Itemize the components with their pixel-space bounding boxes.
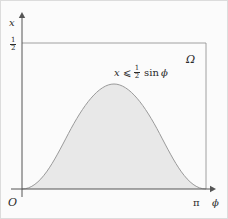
region-label-omega: Ω: [186, 54, 195, 65]
inequality-relation-icon: ⩽: [123, 68, 131, 78]
figure-container: x 1 2 O π ϕ Ω x ⩽ 1 2 sin ϕ: [0, 0, 228, 219]
inequality-annotation: x ⩽ 1 2 sin ϕ: [114, 65, 168, 81]
fraction-numerator: 1: [10, 37, 16, 44]
y-axis-arrow-icon: [19, 12, 25, 18]
plot-canvas: [1, 1, 228, 219]
fraction-one-half: 1 2: [10, 37, 16, 53]
shaded-region-omega: [22, 84, 206, 189]
inequality-function-name: sin: [144, 68, 159, 78]
y-axis-label: x: [9, 18, 15, 28]
fraction-denominator: 2: [10, 44, 16, 52]
inequality-argument: ϕ: [161, 68, 168, 78]
origin-label: O: [8, 197, 17, 208]
x-tick-label-pi: π: [193, 198, 200, 208]
inequality-variable: x: [114, 68, 120, 78]
x-axis-arrow-icon: [210, 186, 216, 192]
x-axis-label: ϕ: [212, 198, 219, 208]
inequality-coefficient-fraction: 1 2: [134, 65, 140, 81]
y-tick-label-one-half: 1 2: [10, 37, 16, 53]
coefficient-denominator: 2: [134, 72, 140, 80]
coefficient-numerator: 1: [134, 65, 140, 72]
